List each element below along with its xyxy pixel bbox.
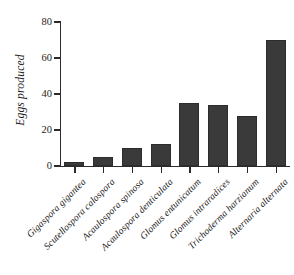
x-axis-tick — [74, 167, 75, 173]
y-axis-tick-label-wrap: 60 — [30, 53, 52, 63]
bar — [237, 116, 257, 166]
y-axis-tick-label: 20 — [30, 125, 52, 135]
y-axis-tick-label: 40 — [30, 89, 52, 99]
x-axis-tick — [247, 167, 248, 173]
bar — [64, 162, 84, 166]
x-axis-tick — [161, 167, 162, 173]
x-axis-tick — [132, 167, 133, 173]
x-axis-tick — [103, 167, 104, 173]
bar-chart-figure: Eggs produced 020406080 Gigaspora gigant… — [0, 0, 294, 275]
bar — [151, 144, 171, 166]
y-axis-label: Eggs produced — [14, 40, 28, 140]
y-axis-tick-label: 80 — [30, 17, 52, 27]
x-axis-tick — [189, 167, 190, 173]
bar — [208, 105, 228, 166]
y-axis-tick-label: 0 — [30, 161, 52, 171]
bar — [122, 148, 142, 166]
bar — [266, 40, 286, 166]
bar — [179, 103, 199, 166]
y-axis-tick-label-wrap: 80 — [30, 17, 52, 27]
y-axis-tick-label-wrap: 40 — [30, 89, 52, 99]
y-axis-tick-label-wrap: 20 — [30, 125, 52, 135]
x-axis-tick — [276, 167, 277, 173]
x-axis-line — [58, 166, 290, 167]
x-axis-tick — [218, 167, 219, 173]
plot-area — [60, 22, 290, 166]
y-axis-tick-label: 60 — [30, 53, 52, 63]
y-axis-tick-label-wrap: 0 — [30, 161, 52, 171]
bar — [93, 157, 113, 166]
